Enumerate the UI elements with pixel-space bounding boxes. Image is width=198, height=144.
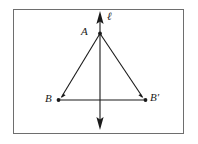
vertex-label-b: B bbox=[45, 93, 52, 104]
segment-a-b bbox=[58, 34, 100, 101]
vertex-dot-bprime bbox=[144, 98, 148, 102]
line-of-reflection bbox=[96, 11, 103, 130]
line-label-l: ℓ bbox=[107, 11, 112, 22]
vertex-label-a: A bbox=[81, 26, 88, 37]
geometry-diagram bbox=[0, 0, 198, 144]
segment-a-bprime bbox=[100, 34, 146, 101]
vertex-dot-a bbox=[98, 32, 102, 36]
vertex-label-bprime: B′ bbox=[150, 92, 159, 103]
vertex-dot-b bbox=[57, 98, 61, 102]
segment-a-b-line bbox=[62, 34, 101, 98]
figure-canvas: A ℓ B B′ bbox=[0, 0, 198, 144]
segment-a-bprime-line bbox=[100, 34, 143, 98]
